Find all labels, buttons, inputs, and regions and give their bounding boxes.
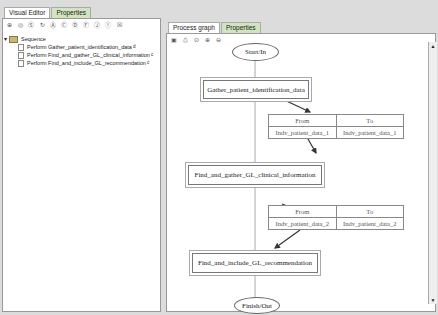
from-value: Indv_patient_data_2 bbox=[269, 218, 337, 230]
mapping-table[interactable]: FromTo Indv_patient_data_1Indv_patient_d… bbox=[268, 114, 404, 139]
from-value: Indv_patient_data_1 bbox=[269, 127, 337, 139]
to-header: To bbox=[336, 206, 404, 218]
scroll-up-icon[interactable]: ▲ bbox=[429, 42, 437, 50]
start-node[interactable]: Start/In bbox=[232, 43, 279, 61]
to-value: Indv_patient_data_2 bbox=[336, 218, 404, 230]
from-header: From bbox=[269, 115, 337, 127]
mapping-table[interactable]: FromTo Indv_patient_data_2Indv_patient_d… bbox=[268, 205, 404, 230]
to-header: To bbox=[336, 115, 404, 127]
finish-node[interactable]: Finish/Out bbox=[234, 297, 280, 314]
process-node[interactable]: Gather_patient_identification_data bbox=[203, 80, 309, 99]
vertical-scrollbar[interactable]: ▲ ▼ bbox=[428, 42, 437, 304]
to-value: Indv_patient_data_1 bbox=[336, 127, 404, 139]
process-node[interactable]: Find_and_gather_GL_clinical_information bbox=[188, 165, 322, 185]
process-node[interactable]: Find_and_include_GL_recommendation bbox=[192, 253, 318, 273]
scroll-down-icon[interactable]: ▼ bbox=[429, 296, 437, 304]
from-header: From bbox=[269, 206, 337, 218]
